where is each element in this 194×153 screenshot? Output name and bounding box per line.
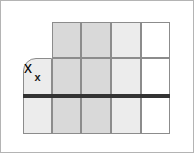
cell-r3c4[interactable] [111,97,141,134]
cell-r1c5[interactable] [141,22,170,58]
horizontal-rule [23,94,170,98]
cell-r2c2[interactable] [52,58,81,97]
x-marker: x [23,58,52,97]
grid-diagram: xx [1,1,194,153]
cell-r1c2[interactable] [52,22,81,58]
cell-r3c5[interactable] [141,97,170,134]
figure-frame: xx [0,0,194,153]
cell-r2c5[interactable] [141,58,170,97]
cell-r1c4[interactable] [111,22,141,58]
cell-r2c4[interactable] [111,58,141,97]
cell-r3c1[interactable] [23,97,52,134]
cell-r1c3[interactable] [81,22,111,58]
cell-r3c3[interactable] [81,97,111,134]
cell-r2c3[interactable] [81,58,111,97]
cell-r3c2[interactable] [52,97,81,134]
